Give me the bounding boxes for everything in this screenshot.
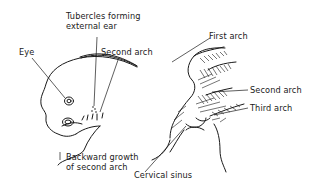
label-backward-growth-line1: Backward growth [66,152,139,162]
right-leader-lines [145,38,248,172]
pharyngeal-arches-diagram: Tubercles forming external ear Eye Secon… [0,0,316,191]
label-second-arch-right: Second arch [250,85,302,95]
label-third-arch: Third arch [250,103,292,113]
label-eye: Eye [19,47,34,57]
label-cervical-sinus: Cervical sinus [134,170,192,180]
arches-drawing [152,47,244,172]
embryo-head-drawing [41,54,137,165]
label-second-arch-left: Second arch [101,47,153,57]
eye-shape [65,97,74,105]
diagram-drawing [0,0,316,191]
lower-swirl-shape [63,118,74,126]
label-first-arch: First arch [209,31,248,41]
label-backward-growth-line2: of second arch [66,162,128,172]
label-tubercles-line2: external ear [66,21,117,31]
second-arch-hatching [198,64,231,88]
first-arch-hatching [200,51,227,63]
label-tubercles-line1: Tubercles forming [66,11,141,21]
